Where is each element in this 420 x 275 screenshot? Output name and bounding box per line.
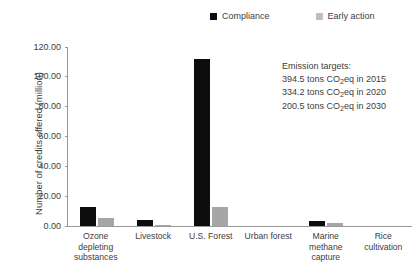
emission-targets-annotation: Emission targets: 394.5 tons CO2eq in 20… [282, 60, 386, 113]
annotation-heading: Emission targets: [282, 60, 386, 73]
chart-legend: Compliance Early action [210, 11, 375, 21]
x-axis-label-line: methane [298, 242, 354, 253]
x-axis-label-line: Livestock [126, 231, 182, 242]
bar [80, 207, 96, 226]
x-axis-label-line: Urban forest [241, 231, 297, 242]
x-axis-label-line: depleting [68, 242, 124, 253]
annotation-tail-2020: eq in 2020 [344, 87, 386, 97]
legend-item-compliance: Compliance [210, 11, 270, 21]
bar [327, 223, 343, 226]
y-tick-label-0: 0.00 [43, 222, 65, 231]
x-axis-label-line: Rice [356, 231, 412, 242]
bar [194, 59, 210, 226]
annotation-line-2030: 200.5 tons CO2eq in 2030 [282, 100, 386, 114]
y-tick-label-40: 40.00 [38, 162, 65, 171]
bar-group [68, 47, 125, 226]
annotation-tail-2030: eq in 2030 [344, 101, 386, 111]
x-axis-label-line: capture [298, 252, 354, 263]
y-tick-label-80: 80.00 [38, 102, 65, 111]
legend-label-early-action: Early action [328, 11, 375, 21]
bar [212, 207, 228, 226]
legend-item-early-action: Early action [316, 11, 375, 21]
annotation-line-2020: 334.2 tons CO2eq in 2020 [282, 86, 386, 100]
bar [309, 221, 325, 226]
x-axis-label-line: cultivation [356, 242, 412, 253]
bar-chart-figure: Compliance Early action Number of credit… [0, 0, 420, 275]
x-axis-labels: OzonedepletingsubstancesLivestockU.S. Fo… [67, 231, 412, 263]
x-axis-label: Ricecultivation [355, 231, 413, 263]
y-tick-label-20: 20.00 [38, 192, 65, 201]
x-axis-label: Livestock [125, 231, 183, 263]
x-axis-label: U.S. Forest [182, 231, 240, 263]
x-axis-label-line: Marine [298, 231, 354, 242]
annotation-amount-2030: 200.5 tons CO [282, 101, 340, 111]
x-axis-label: Urban forest [240, 231, 298, 263]
y-tick-label-100: 100.00 [33, 72, 65, 81]
y-tick-label-60: 60.00 [38, 132, 65, 141]
annotation-tail-2015: eq in 2015 [344, 74, 386, 84]
annotation-sub-2030: 2 [340, 105, 344, 112]
annotation-amount-2020: 334.2 tons CO [282, 87, 340, 97]
annotation-sub-2020: 2 [340, 91, 344, 98]
x-axis-label-line: Ozone [68, 231, 124, 242]
legend-swatch-compliance-icon [210, 13, 217, 20]
bar-group [125, 47, 182, 226]
annotation-sub-2015: 2 [340, 78, 344, 85]
annotation-amount-2015: 394.5 tons CO [282, 74, 340, 84]
x-axis-label: Ozonedepletingsubstances [67, 231, 125, 263]
bar [137, 220, 153, 226]
legend-swatch-early-action-icon [316, 13, 323, 20]
bar [98, 218, 114, 226]
y-tick-label-120: 120.00 [33, 43, 65, 52]
bar [155, 225, 171, 226]
bar-group [183, 47, 240, 226]
x-axis-label: Marinemethanecapture [297, 231, 355, 263]
x-axis-label-line: substances [68, 252, 124, 263]
x-axis-label-line: U.S. Forest [183, 231, 239, 242]
legend-label-compliance: Compliance [222, 11, 270, 21]
annotation-line-2015: 394.5 tons CO2eq in 2015 [282, 73, 386, 87]
